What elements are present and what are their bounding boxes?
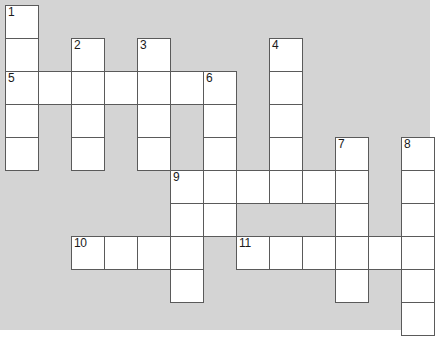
crossword-cell[interactable] [269, 236, 303, 270]
cell-letter [270, 237, 302, 269]
cell-letter [336, 204, 368, 236]
crossword-cell[interactable]: 7 [335, 137, 369, 171]
crossword-cell[interactable] [137, 71, 171, 105]
cell-letter [204, 138, 236, 170]
cell-letter [105, 72, 137, 104]
crossword-cell[interactable] [137, 236, 171, 270]
cell-letter [336, 171, 368, 203]
cell-letter [270, 39, 302, 71]
crossword-cell[interactable]: 6 [203, 71, 237, 105]
crossword-cell[interactable] [302, 236, 336, 270]
crossword-cell[interactable] [203, 203, 237, 237]
crossword-cell[interactable] [203, 170, 237, 204]
cell-letter [6, 105, 38, 137]
crossword-cell[interactable]: 10 [71, 236, 105, 270]
crossword-cell[interactable]: 8 [401, 137, 435, 171]
crossword-cell[interactable] [5, 137, 39, 171]
crossword-cell[interactable] [71, 104, 105, 138]
cell-letter [39, 72, 71, 104]
crossword-cell[interactable] [71, 137, 105, 171]
cell-letter [6, 138, 38, 170]
cell-letter [270, 72, 302, 104]
crossword-cell[interactable]: 9 [170, 170, 204, 204]
cell-letter [402, 270, 434, 302]
crossword-cell[interactable]: 1 [5, 5, 39, 39]
crossword-cell[interactable] [401, 203, 435, 237]
crossword-cell[interactable] [269, 104, 303, 138]
cell-letter [402, 138, 434, 170]
cell-letter [237, 237, 269, 269]
crossword-cell[interactable] [203, 137, 237, 171]
crossword-cell[interactable] [269, 137, 303, 171]
cell-letter [72, 237, 104, 269]
cell-letter [204, 204, 236, 236]
crossword-cell[interactable] [170, 236, 204, 270]
crossword-cell[interactable] [335, 236, 369, 270]
crossword-cell[interactable] [170, 269, 204, 303]
cell-letter [138, 72, 170, 104]
crossword-cell[interactable] [335, 203, 369, 237]
cell-letter [402, 237, 434, 269]
cell-letter [303, 237, 335, 269]
cell-letter [336, 237, 368, 269]
crossword-cell[interactable] [104, 236, 138, 270]
cell-letter [138, 39, 170, 71]
crossword-cell[interactable] [170, 71, 204, 105]
cell-letter [72, 39, 104, 71]
cell-letter [237, 171, 269, 203]
crossword-cell[interactable]: 3 [137, 38, 171, 72]
cell-letter [171, 270, 203, 302]
crossword-cell[interactable] [170, 203, 204, 237]
crossword-cell[interactable] [137, 104, 171, 138]
cell-letter [270, 171, 302, 203]
cell-letter [402, 171, 434, 203]
cell-letter [138, 237, 170, 269]
cell-letter [72, 105, 104, 137]
cell-letter [270, 105, 302, 137]
crossword-cell[interactable] [401, 236, 435, 270]
crossword-cell[interactable]: 2 [71, 38, 105, 72]
cell-letter [303, 171, 335, 203]
crossword-cell[interactable] [401, 302, 435, 336]
crossword-cell[interactable] [302, 170, 336, 204]
crossword-cell[interactable] [269, 71, 303, 105]
crossword-cell[interactable] [203, 104, 237, 138]
cell-letter [336, 138, 368, 170]
crossword-cell[interactable] [5, 104, 39, 138]
crossword-cell[interactable]: 5 [5, 71, 39, 105]
cell-letter [369, 237, 401, 269]
cell-letter [204, 171, 236, 203]
cell-letter [402, 303, 434, 335]
cell-letter [171, 72, 203, 104]
crossword-cell[interactable] [38, 71, 72, 105]
cell-letter [6, 72, 38, 104]
crossword-cell[interactable] [5, 38, 39, 72]
cell-letter [402, 204, 434, 236]
crossword-cell[interactable]: 11 [236, 236, 270, 270]
crossword-cell[interactable]: 4 [269, 38, 303, 72]
crossword-cell[interactable] [368, 236, 402, 270]
crossword-cell[interactable] [269, 170, 303, 204]
crossword-cell[interactable] [335, 170, 369, 204]
cell-letter [171, 171, 203, 203]
cell-letter [105, 237, 137, 269]
cell-letter [270, 138, 302, 170]
cell-letter [138, 105, 170, 137]
cell-letter [204, 105, 236, 137]
crossword-cell[interactable] [71, 71, 105, 105]
crossword-cell[interactable] [236, 170, 270, 204]
cell-letter [6, 39, 38, 71]
cell-letter [204, 72, 236, 104]
cell-letter [72, 72, 104, 104]
cell-letter [336, 270, 368, 302]
crossword-cell[interactable] [401, 269, 435, 303]
crossword-cell[interactable] [137, 137, 171, 171]
crossword-cell[interactable] [401, 170, 435, 204]
cell-letter [138, 138, 170, 170]
cell-letter [72, 138, 104, 170]
crossword-cell[interactable] [335, 269, 369, 303]
crossword-cell[interactable] [104, 71, 138, 105]
cell-letter [6, 6, 38, 38]
